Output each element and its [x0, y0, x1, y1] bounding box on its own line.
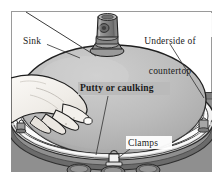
clamp-right [198, 118, 209, 132]
label-underside-line1: Underside of [130, 36, 210, 46]
sink-installation-figure: Sink Underside of countertop Putty or ca… [0, 0, 223, 183]
label-clamps: Clamps [128, 138, 158, 148]
label-sink: Sink [23, 36, 41, 46]
label-putty-or-caulking: Putty or caulking [80, 83, 154, 93]
label-underside-line2: countertop [130, 66, 210, 76]
